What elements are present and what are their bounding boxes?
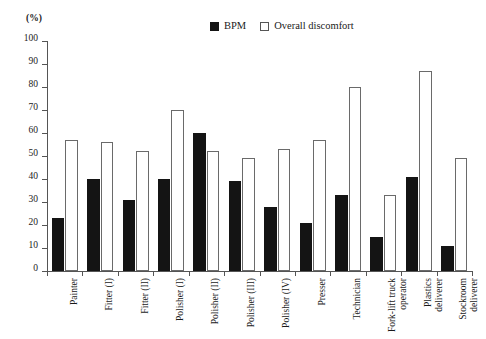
x-axis-category-label: Polisher (IV) [281,278,292,339]
y-axis-tick: 60 [42,133,47,134]
y-axis-tick-label: 90 [16,57,38,67]
bar-overall-discomfort [242,158,255,271]
bar-overall-discomfort [349,87,362,271]
bar-group [123,41,149,271]
y-axis-tick: 20 [42,225,47,226]
y-axis-tick-label: 60 [16,126,38,136]
bar-bpm [370,237,383,272]
x-axis-tick [82,271,83,276]
bar-bpm [158,179,171,271]
y-axis-unit-label: (%) [26,14,42,24]
x-axis-tick [153,271,154,276]
legend-label-bpm: BPM [224,21,246,32]
plot-area: 0102030405060708090100 [47,41,472,271]
bar-bpm [229,181,242,271]
bar-group [370,41,396,271]
x-axis-category-label: Plastics deliverer [423,278,444,339]
legend-label-overall-discomfort: Overall discomfort [274,21,354,32]
y-axis-tick-label: 40 [16,172,38,182]
x-axis-category-label: Fitter (II) [140,278,151,339]
x-axis-category-label: Painter [69,278,80,339]
x-axis-tick [401,271,402,276]
x-axis-tick [472,271,473,276]
y-axis-tick-label: 80 [16,80,38,90]
x-axis-tick [189,271,190,276]
y-axis-tick: 30 [42,202,47,203]
bar-overall-discomfort [207,151,220,271]
y-axis-tick-label: 50 [16,149,38,159]
y-axis-tick-label: 20 [16,218,38,228]
x-axis-tick [118,271,119,276]
open-square-icon [260,22,269,31]
y-axis-tick-label: 100 [16,34,38,44]
x-axis-tick [47,271,48,276]
legend-item-overall-discomfort: Overall discomfort [260,21,354,32]
bar-group [441,41,467,271]
bar-group [193,41,219,271]
bar-overall-discomfort [419,71,432,271]
bar-group [158,41,184,271]
bar-overall-discomfort [384,195,397,271]
x-axis-category-label: Polisher (I) [175,278,186,339]
bar-group [300,41,326,271]
bar-bpm [264,207,277,271]
y-axis-tick: 70 [42,110,47,111]
x-axis-category-label: Polisher (III) [246,278,257,339]
bar-bpm [52,218,65,271]
legend-item-bpm: BPM [210,21,246,32]
chart-legend: BPM Overall discomfort [210,18,354,34]
bar-bpm [123,200,136,271]
y-axis-tick-label: 0 [16,264,38,274]
bar-bpm [193,133,206,271]
y-axis-tick: 50 [42,156,47,157]
bar-overall-discomfort [136,151,149,271]
bar-group [52,41,78,271]
y-axis-tick: 80 [42,87,47,88]
bar-group [335,41,361,271]
bar-overall-discomfort [171,110,184,271]
y-axis-tick-label: 30 [16,195,38,205]
x-axis-tick [260,271,261,276]
bar-overall-discomfort [313,140,326,271]
bar-group [264,41,290,271]
x-axis-tick [437,271,438,276]
bar-bpm [406,177,419,271]
x-axis-category-label: Polisher (II) [210,278,221,339]
x-axis-tick [224,271,225,276]
x-axis-category-label: Technician [352,278,363,339]
bar-overall-discomfort [65,140,78,271]
bar-group [406,41,432,271]
bar-group [87,41,113,271]
y-axis-tick: 90 [42,64,47,65]
x-axis-tick [295,271,296,276]
x-axis-category-label: Fitter (I) [104,278,115,339]
bar-bpm [441,246,454,271]
y-axis-tick-label: 70 [16,103,38,113]
x-axis-category-label: Stockroom deliverer [458,278,479,339]
bar-group [229,41,255,271]
y-axis-tick: 100 [42,41,47,42]
x-axis-category-label: Presser [317,278,328,339]
x-axis-tick [330,271,331,276]
y-axis-tick: 40 [42,179,47,180]
bar-bpm [300,223,313,271]
bar-bpm [335,195,348,271]
filled-square-icon [210,22,219,31]
y-axis-tick: 10 [42,248,47,249]
bar-overall-discomfort [455,158,468,271]
x-axis-labels: PainterFitter (I)Fitter (II)Polisher (I)… [47,278,472,339]
bar-bpm [87,179,100,271]
y-axis-tick-label: 10 [16,241,38,251]
bar-chart: (%) BPM Overall discomfort 0102030405060… [0,0,486,339]
x-axis-tick [366,271,367,276]
bar-overall-discomfort [101,142,114,271]
y-axis-line [47,41,48,272]
bar-overall-discomfort [278,149,291,271]
x-axis-category-label: Fork-lift truck operator [387,278,408,339]
